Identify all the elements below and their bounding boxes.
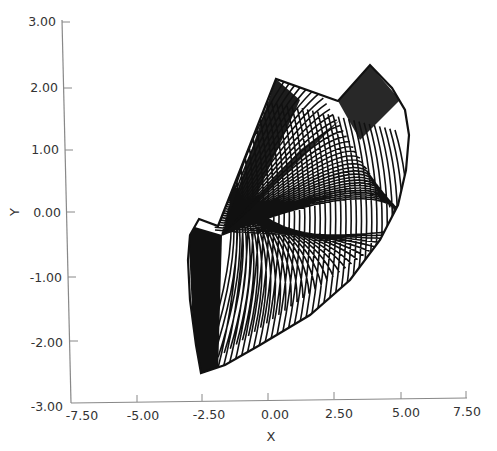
y-axis-title: Y: [7, 208, 22, 217]
x-tick-label: 5.00: [392, 405, 420, 420]
chart: 3.00 2.00 1.00 0.00 -1.00 -2.00 -3.00 -7…: [0, 0, 497, 451]
y-tick-label: 1.00: [31, 142, 59, 157]
x-tick-label: -5.00: [127, 408, 159, 423]
y-tick-label: -1.00: [30, 270, 62, 285]
x-tick-label: 0.00: [261, 407, 289, 422]
y-axis: [62, 20, 78, 403]
y-tick-label: -3.00: [31, 399, 63, 414]
x-axis: [71, 391, 467, 403]
y-tick-label: 0.00: [33, 205, 61, 220]
x-tick-label: -7.50: [66, 408, 98, 423]
trajectory: [180, 60, 420, 380]
x-tick-labels: -7.50 -5.00 -2.50 0.00 2.50 5.00 7.50: [66, 404, 481, 423]
y-tick-label: -2.00: [31, 335, 63, 350]
x-tick-label: 2.50: [325, 406, 353, 421]
y-tick-label: 2.00: [30, 80, 58, 95]
y-tick-labels: 3.00 2.00 1.00 0.00 -1.00 -2.00 -3.00: [28, 14, 63, 414]
x-tick-label: 7.50: [453, 404, 481, 419]
x-tick-label: -2.50: [193, 407, 225, 422]
x-axis-title: X: [267, 429, 276, 444]
y-tick-label: 3.00: [28, 14, 56, 29]
